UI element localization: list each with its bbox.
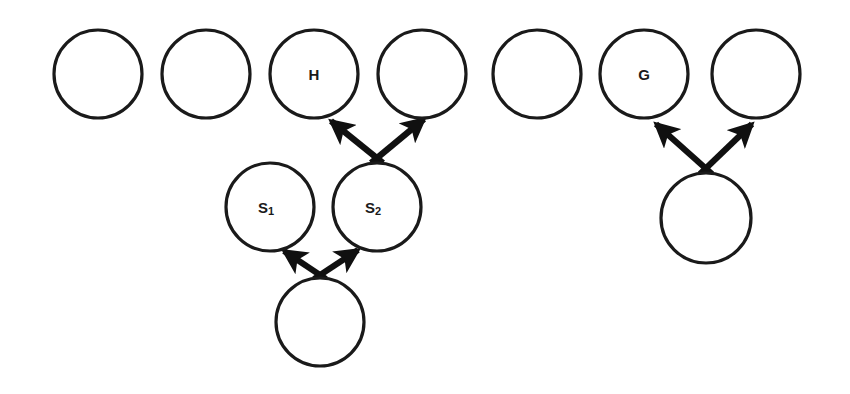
node-outline[interactable] [54, 30, 142, 118]
arrow-m3-to-t7 [700, 124, 752, 174]
node-g[interactable]: G [600, 30, 688, 118]
node-outline[interactable] [162, 30, 250, 118]
arrow-shaft [371, 119, 424, 163]
node-diagram: HGS1S2 [0, 0, 850, 394]
node-label-subscript: 2 [375, 205, 381, 217]
node-layer: HGS1S2 [54, 30, 800, 366]
arrow-shaft [700, 124, 752, 174]
node-outline[interactable] [378, 30, 466, 118]
node-label: H [309, 66, 320, 83]
node-label-subscript: 1 [268, 205, 274, 217]
node-s2[interactable]: S2 [333, 163, 421, 251]
diagram-canvas: HGS1S2 [0, 0, 850, 394]
node-outline[interactable] [661, 173, 751, 263]
node-t7[interactable] [712, 30, 800, 118]
arrow-shaft [314, 250, 358, 279]
node-label: G [638, 66, 650, 83]
node-outline[interactable] [712, 30, 800, 118]
node-h[interactable]: H [270, 30, 358, 118]
node-t2[interactable] [162, 30, 250, 118]
arrow-m2-to-t4 [371, 119, 424, 163]
node-m3[interactable] [661, 173, 751, 263]
node-outline[interactable] [493, 30, 581, 118]
node-t5[interactable] [493, 30, 581, 118]
arrow-b1-to-m2 [314, 250, 358, 279]
node-t1[interactable] [54, 30, 142, 118]
node-t4[interactable] [378, 30, 466, 118]
node-outline[interactable] [276, 278, 364, 366]
node-s1[interactable]: S1 [226, 163, 314, 251]
node-b1[interactable] [276, 278, 364, 366]
